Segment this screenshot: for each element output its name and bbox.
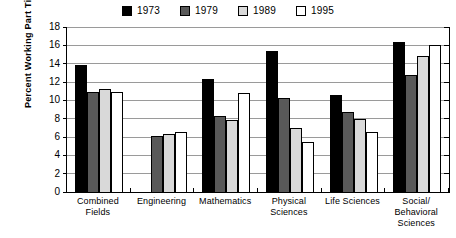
bar-1995 [175, 132, 187, 193]
bars [330, 27, 378, 192]
x-axis-label-line: Life Sciences [321, 196, 385, 207]
bar-1979 [87, 92, 99, 192]
bar-group [385, 27, 449, 192]
legend-item-1989: 1989 [238, 6, 276, 16]
legend-swatch-1973 [122, 6, 132, 16]
y-axis-title: Percent Working Part Time [23, 0, 33, 129]
bars [202, 27, 250, 192]
bar-1979 [151, 136, 163, 192]
bar-1989 [226, 120, 238, 192]
bar-group [67, 27, 131, 192]
bar-group [322, 27, 386, 192]
x-axis-label-line: Physical [257, 196, 321, 207]
bar-1979 [278, 98, 290, 192]
bar-1995 [302, 142, 314, 192]
bars [393, 27, 441, 192]
x-axis-label: PhysicalSciences [257, 196, 321, 229]
x-axis-label-line: Social/ [384, 196, 448, 207]
bars [75, 27, 123, 192]
bar-1989 [99, 89, 111, 192]
x-axis-label-line: Mathematics [193, 196, 257, 207]
x-axis-label-line: Behavioral [384, 207, 448, 218]
y-tick-label: 6 [54, 132, 60, 142]
bar-group [258, 27, 322, 192]
chart-legend: 1973197919891995 [0, 6, 456, 16]
x-axis-label: Engineering [130, 196, 194, 229]
bar-1973 [266, 51, 278, 192]
x-axis-label-line: Engineering [130, 196, 194, 207]
y-tick-label: 2 [54, 169, 60, 179]
x-axis-label: Mathematics [193, 196, 257, 229]
y-tick-label: 8 [54, 114, 60, 124]
legend-swatch-1995 [296, 6, 306, 16]
x-axis-label-line: Sciences [257, 207, 321, 218]
legend-label-1989: 1989 [253, 6, 276, 16]
x-tick-mark [448, 188, 449, 192]
legend-label-1979: 1979 [195, 6, 218, 16]
bar-groups [67, 27, 449, 192]
bars [266, 27, 314, 192]
x-axis-labels: CombinedFieldsEngineeringMathematicsPhys… [66, 196, 448, 229]
bar-1995 [429, 45, 441, 192]
bar-1995 [238, 93, 250, 192]
y-tick-label: 14 [49, 59, 60, 69]
bar-1989 [417, 56, 429, 192]
y-tick-label: 18 [49, 22, 60, 32]
bar-1979 [342, 112, 354, 192]
bar-group [194, 27, 258, 192]
plot-area: 024681012141618 [66, 27, 450, 193]
bar-1995 [366, 132, 378, 193]
legend-item-1973: 1973 [122, 6, 160, 16]
bar-1973 [75, 65, 87, 192]
x-axis-label-line: Fields [66, 207, 130, 218]
legend-label-1995: 1995 [311, 6, 334, 16]
bar-1979 [214, 116, 226, 192]
bar-1995 [111, 92, 123, 192]
bar-1973 [202, 79, 214, 192]
x-axis-label-line: Sciences [384, 218, 448, 229]
bar-1989 [163, 134, 175, 192]
bar-chart: 1973197919891995 Percent Working Part Ti… [0, 0, 456, 238]
bar-1979 [405, 75, 417, 192]
y-tick-label: 4 [54, 150, 60, 160]
legend-item-1979: 1979 [180, 6, 218, 16]
y-tick-label: 0 [54, 187, 60, 197]
y-tick-label: 12 [49, 77, 60, 87]
y-tick-label: 10 [49, 95, 60, 105]
x-axis-label-line: Combined [66, 196, 130, 207]
x-axis-label: CombinedFields [66, 196, 130, 229]
x-axis-label: Life Sciences [321, 196, 385, 229]
bars [139, 27, 187, 192]
bar-1973 [393, 42, 405, 192]
bar-group [131, 27, 195, 192]
legend-label-1973: 1973 [137, 6, 160, 16]
legend-swatch-1979 [180, 6, 190, 16]
legend-swatch-1989 [238, 6, 248, 16]
bar-1989 [290, 128, 302, 192]
bar-1989 [354, 119, 366, 192]
legend-item-1995: 1995 [296, 6, 334, 16]
x-axis-label: Social/BehavioralSciences [384, 196, 448, 229]
bar-1973 [330, 95, 342, 192]
y-tick-label: 16 [49, 40, 60, 50]
